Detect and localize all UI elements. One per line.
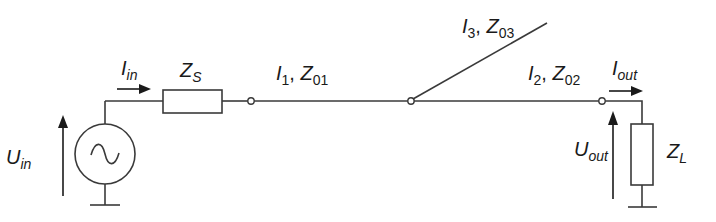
input-current-arrow bbox=[117, 84, 151, 94]
source-impedance-label: ZS bbox=[179, 59, 202, 85]
output-voltage-arrow bbox=[608, 111, 618, 199]
output-current-label: Iout bbox=[612, 57, 638, 83]
line1-label: I1, Z01 bbox=[276, 62, 328, 88]
output-voltage-label: Uout bbox=[574, 138, 609, 164]
line3-label: I3, Z03 bbox=[462, 15, 514, 41]
arrow-right-icon bbox=[139, 84, 151, 94]
arrow-up-icon bbox=[58, 115, 68, 128]
arrow-up-icon bbox=[608, 111, 618, 125]
arrow-right-icon bbox=[631, 86, 643, 96]
node-1 bbox=[248, 98, 254, 104]
node-junction bbox=[408, 98, 414, 104]
output-current-arrow bbox=[609, 86, 643, 96]
circuit-diagram: Uin Iin ZS I1, Z01 I3, Z03 I2, Z02 Iout bbox=[0, 0, 716, 222]
input-current-label: Iin bbox=[121, 57, 138, 83]
node-3 bbox=[599, 98, 605, 104]
load-impedance-label: ZL bbox=[666, 140, 687, 166]
source-impedance-resistor bbox=[163, 90, 222, 113]
load-impedance-resistor bbox=[631, 124, 653, 185]
ac-voltage-source bbox=[75, 101, 135, 205]
input-voltage-arrow bbox=[58, 115, 68, 196]
input-voltage-label: Uin bbox=[6, 146, 32, 172]
line2-label: I2, Z02 bbox=[528, 62, 580, 88]
